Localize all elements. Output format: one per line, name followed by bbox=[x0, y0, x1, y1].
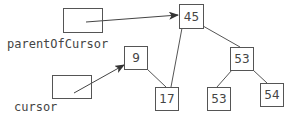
pointer-box-parentOfCursor bbox=[63, 8, 103, 33]
tree-node-54: 54 bbox=[260, 83, 284, 107]
pointer-label-cursor: cursor bbox=[14, 100, 57, 114]
edge-45-53 bbox=[203, 26, 240, 47]
pointer-label-parentOfCursor: parentOfCursor bbox=[7, 37, 108, 51]
tree-diagram: parentOfCursor cursor 45 9 17 53 53 54 bbox=[0, 0, 290, 122]
edge-9-17 bbox=[147, 69, 166, 87]
pointer-box-cursor bbox=[52, 75, 92, 99]
edge-45-17 bbox=[171, 28, 182, 87]
tree-node-45: 45 bbox=[179, 4, 204, 29]
edge-53-54 bbox=[253, 70, 267, 83]
tree-node-53: 53 bbox=[230, 47, 254, 71]
tree-node-53-left-child: 53 bbox=[207, 87, 231, 111]
edge-53-53 bbox=[217, 70, 232, 87]
tree-node-17: 17 bbox=[155, 87, 179, 111]
tree-node-9: 9 bbox=[124, 46, 148, 70]
